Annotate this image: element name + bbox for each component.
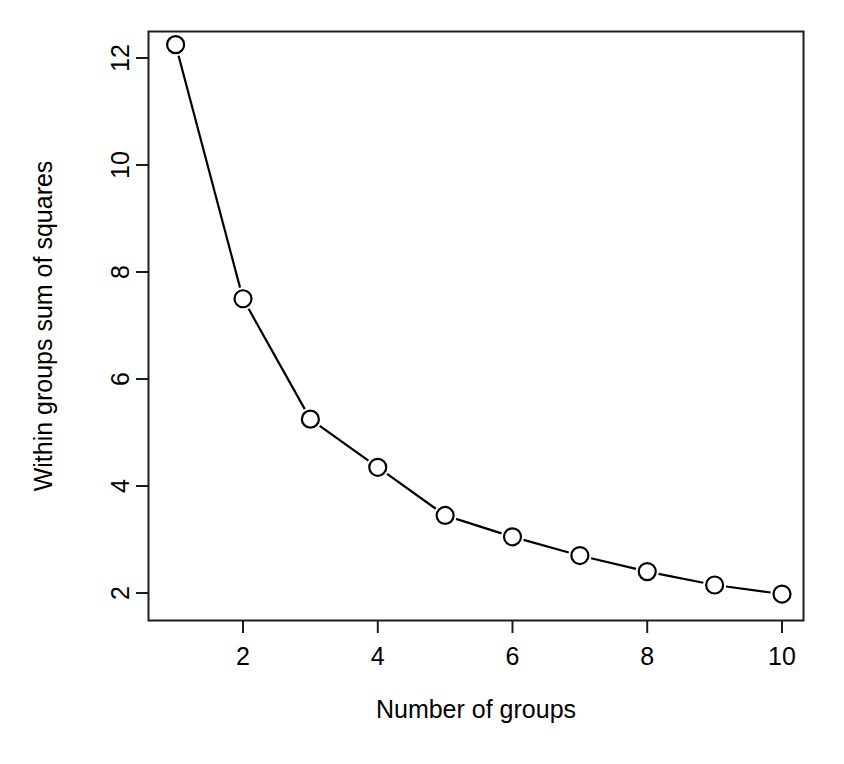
plot-canvas: 12 10 8 6 4 2 2 4 6 8 10 Number of group… <box>0 0 844 764</box>
y-tick-label-4: 4 <box>106 479 134 493</box>
y-tick-label-12: 12 <box>106 44 134 72</box>
x-axis-title: Number of groups <box>376 695 576 723</box>
x-tick-label-8: 8 <box>640 642 654 670</box>
x-tick-label-4: 4 <box>371 642 385 670</box>
y-tick-label-6: 6 <box>106 372 134 386</box>
x-tick-label-10: 10 <box>768 642 796 670</box>
y-tick-label-10: 10 <box>106 151 134 179</box>
y-tick-label-8: 8 <box>106 265 134 279</box>
x-tick-label-6: 6 <box>506 642 520 670</box>
scree-plot-figure: 12 10 8 6 4 2 2 4 6 8 10 Number of group… <box>0 0 844 764</box>
x-tick-label-2: 2 <box>236 642 250 670</box>
y-axis-title: Within groups sum of squares <box>29 161 57 492</box>
y-tick-label-2: 2 <box>106 586 134 600</box>
